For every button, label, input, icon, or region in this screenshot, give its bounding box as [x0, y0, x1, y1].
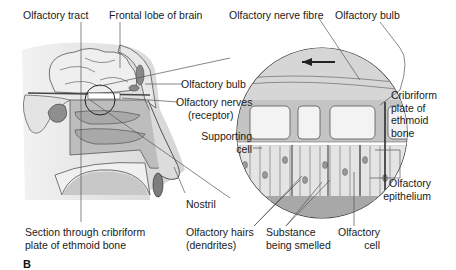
label-cribriform-line4: bone — [391, 127, 414, 139]
label-olfactory-nerves-line2: (receptor) — [176, 109, 234, 121]
label-supporting-line2: cell — [236, 143, 252, 155]
label-hairs-line1: Olfactory hairs — [186, 226, 254, 238]
label-hairs-line2: (dendrites) — [186, 239, 236, 251]
label-olfactory-cell-line1: Olfactory — [338, 226, 380, 238]
label-section-cribriform: Section through cribriform plate of ethm… — [25, 226, 145, 251]
label-frontal-lobe: Frontal lobe of brain — [109, 9, 202, 22]
label-cribriform-line2: plate of — [391, 102, 425, 114]
label-section-line1: Section through cribriform — [25, 226, 145, 238]
label-olfactory-bulb-top: Olfactory bulb — [335, 9, 400, 22]
label-epithelium-line1: Olfactory — [389, 177, 431, 189]
panel-letter: B — [23, 258, 31, 270]
label-olfactory-cell: Olfactory cell — [330, 226, 380, 251]
label-cribriform-line3: ethmoid — [391, 114, 428, 126]
label-olfactory-epithelium: Olfactory epithelium — [375, 177, 431, 202]
label-section-line2: plate of ethmoid bone — [25, 239, 126, 251]
label-cribriform-line1: Cribriform — [391, 89, 437, 101]
label-olfactory-tract: Olfactory tract — [23, 9, 88, 22]
label-cribriform-plate: Cribriform plate of ethmoid bone — [391, 89, 437, 139]
label-olfactory-bulb-left: Olfactory bulb — [181, 78, 246, 91]
label-substance: Substance being smelled — [266, 226, 331, 251]
label-nostril: Nostril — [186, 198, 216, 211]
label-olfactory-hairs: Olfactory hairs (dendrites) — [186, 226, 254, 251]
label-supporting-line1: Supporting — [201, 130, 252, 142]
label-olfactory-nerves: Olfactory nerves (receptor) — [176, 96, 252, 121]
label-epithelium-line2: epithelium — [383, 190, 431, 202]
label-olfactory-nerves-line1: Olfactory nerves — [176, 96, 252, 108]
head-section — [22, 42, 185, 200]
label-olfactory-cell-line2: cell — [364, 239, 380, 251]
label-olfactory-nerve-fibre: Olfactory nerve fibre — [229, 9, 324, 22]
label-substance-line2: being smelled — [266, 239, 331, 251]
label-substance-line1: Substance — [266, 226, 316, 238]
label-supporting-cell: Supporting cell — [196, 130, 252, 155]
